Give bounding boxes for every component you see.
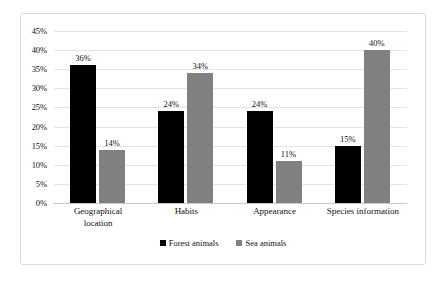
bar-group: 36%14% [54, 31, 142, 203]
bar-forest-animals[interactable] [335, 146, 361, 203]
legend-item-forest-animals[interactable]: Forest animals [160, 238, 219, 248]
bar-sea-animals[interactable] [276, 161, 302, 203]
legend-item-sea-animals[interactable]: Sea animals [236, 238, 286, 248]
bar-value-label: 36% [63, 53, 103, 63]
x-axis-category-line: Habits [142, 206, 230, 218]
gridline [54, 203, 407, 204]
bar-value-label: 24% [151, 99, 191, 109]
x-axis-category-label: Habits [142, 206, 230, 218]
bar-value-label: 24% [240, 99, 280, 109]
y-axis-tick-label: 15% [32, 141, 47, 151]
bar-group: 15%40% [319, 31, 407, 203]
y-axis-tick-label: 10% [32, 160, 47, 170]
legend-label: Sea animals [245, 238, 286, 248]
x-axis-category-line: Species information [319, 206, 407, 218]
bar-forest-animals[interactable] [70, 65, 96, 203]
bar-value-label: 15% [328, 134, 368, 144]
legend-swatch-icon [236, 240, 242, 246]
y-axis-tick-label: 5% [36, 179, 47, 189]
bar-value-label: 34% [180, 61, 220, 71]
x-axis-category-label: Appearance [231, 206, 319, 218]
bar-sea-animals[interactable] [187, 73, 213, 203]
y-axis-tick-label: 30% [32, 83, 47, 93]
bar-group: 24%11% [231, 31, 319, 203]
bar-value-label: 11% [269, 149, 309, 159]
bar-forest-animals[interactable] [158, 111, 184, 203]
chart-legend: Forest animalsSea animals [21, 238, 425, 248]
x-axis-category-label: Geographicallocation [54, 206, 142, 229]
legend-label: Forest animals [169, 238, 219, 248]
chart-frame: 45%40%35%30%25%20%15%10%5%0% 36%14%24%34… [20, 13, 426, 265]
y-axis-tick-label: 25% [32, 102, 47, 112]
x-axis-category-line: Geographical [54, 206, 142, 218]
x-axis-category-line: location [54, 218, 142, 230]
bars-layer: 36%14%24%34%24%11%15%40% [54, 31, 407, 203]
y-axis-tick-label: 40% [32, 45, 47, 55]
x-axis: GeographicallocationHabitsAppearanceSpec… [54, 206, 407, 240]
bar-value-label: 40% [357, 38, 397, 48]
legend-swatch-icon [160, 240, 166, 246]
bar-sea-animals[interactable] [99, 150, 125, 204]
y-axis-tick-label: 20% [32, 122, 47, 132]
y-axis-tick-label: 35% [32, 64, 47, 74]
y-axis: 45%40%35%30%25%20%15%10%5%0% [21, 31, 52, 203]
bar-group: 24%34% [142, 31, 230, 203]
x-axis-category-label: Species information [319, 206, 407, 218]
bar-sea-animals[interactable] [364, 50, 390, 203]
y-axis-tick-label: 45% [32, 26, 47, 36]
x-axis-category-line: Appearance [231, 206, 319, 218]
y-axis-tick-label: 0% [36, 198, 47, 208]
bar-value-label: 14% [92, 138, 132, 148]
